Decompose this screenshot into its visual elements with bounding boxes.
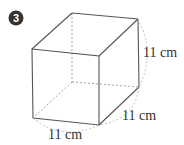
cube-diagram: 3 11 cm 11 cm 11 cm <box>0 0 184 145</box>
depth-label: 11 cm <box>122 108 156 123</box>
problem-number-badge: 3 <box>9 11 24 26</box>
width-label: 11 cm <box>48 127 82 142</box>
height-label: 11 cm <box>143 45 177 60</box>
problem-number: 3 <box>13 12 19 24</box>
